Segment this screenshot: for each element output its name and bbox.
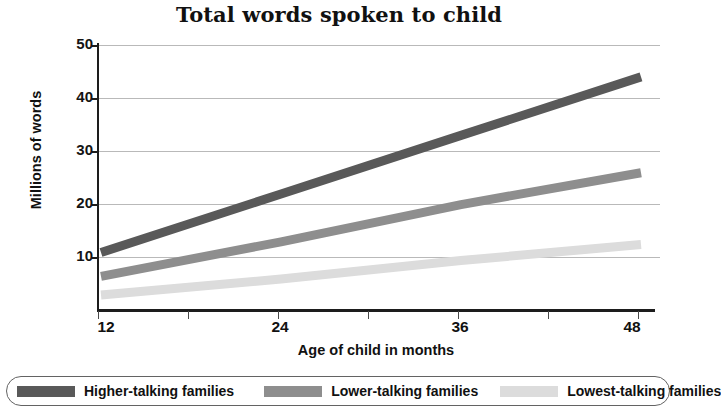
legend-item-lower-talking[interactable]: Lower-talking families bbox=[264, 383, 478, 399]
gridline-40 bbox=[97, 98, 660, 99]
gridline-20 bbox=[97, 204, 660, 205]
legend-label: Higher-talking families bbox=[84, 383, 234, 399]
x-tick-12: 12 bbox=[83, 318, 129, 336]
x-tick-48: 48 bbox=[609, 318, 655, 336]
y-axis-line bbox=[97, 43, 99, 312]
chart-legend: Higher-talking families Lower-talking fa… bbox=[6, 376, 670, 406]
gridline-30 bbox=[97, 151, 660, 152]
y-axis-title: Millions of words bbox=[28, 70, 44, 230]
series-line-lowest-talking bbox=[101, 245, 641, 296]
legend-swatch-icon bbox=[500, 386, 558, 397]
x-tick-mark-18 bbox=[188, 311, 189, 319]
y-tick-label: 50 bbox=[59, 35, 93, 52]
y-tick-10: 10 bbox=[55, 247, 93, 265]
legend-item-lowest-talking[interactable]: Lowest-talking families bbox=[500, 383, 721, 399]
x-tick-mark-42 bbox=[548, 311, 549, 319]
x-tick-24: 24 bbox=[257, 318, 303, 336]
y-tick-20: 20 bbox=[55, 194, 93, 212]
series-line-higher-talking bbox=[101, 77, 641, 253]
series-line-lower-talking bbox=[101, 173, 641, 277]
x-tick-mark-30 bbox=[368, 311, 369, 319]
legend-item-higher-talking[interactable]: Higher-talking families bbox=[17, 383, 234, 399]
gridline-10 bbox=[97, 257, 660, 258]
y-tick-30: 30 bbox=[55, 141, 93, 159]
legend-label: Lower-talking families bbox=[331, 383, 478, 399]
gridline-50 bbox=[97, 45, 660, 46]
x-axis-line bbox=[97, 309, 655, 312]
y-tick-50: 50 bbox=[55, 35, 93, 53]
chart-title: Total words spoken to child bbox=[0, 2, 678, 27]
legend-label: Lowest-talking families bbox=[567, 383, 721, 399]
y-tick-40: 40 bbox=[55, 88, 93, 106]
y-tick-label: 20 bbox=[59, 194, 93, 211]
y-tick-label: 30 bbox=[59, 141, 93, 158]
x-axis-title: Age of child in months bbox=[97, 342, 655, 358]
x-tick-36: 36 bbox=[437, 318, 483, 336]
legend-swatch-icon bbox=[264, 386, 322, 397]
y-tick-label: 40 bbox=[59, 88, 93, 105]
legend-swatch-icon bbox=[17, 386, 75, 397]
y-tick-label: 10 bbox=[59, 247, 93, 264]
